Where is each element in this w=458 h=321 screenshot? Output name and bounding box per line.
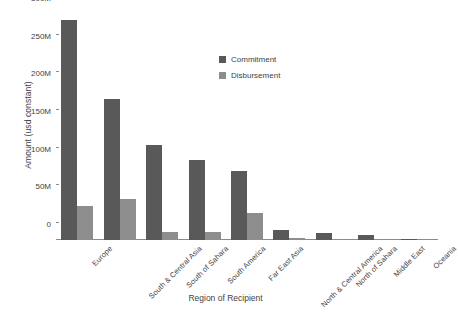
legend-swatch-icon xyxy=(219,56,226,63)
bar-disbursement xyxy=(162,232,178,240)
bar-group xyxy=(268,14,310,240)
bar-disbursement xyxy=(205,232,221,240)
legend-label: Disbursement xyxy=(231,71,280,80)
bar-commitment xyxy=(189,160,205,240)
bar-group xyxy=(98,14,140,240)
x-axis-title: Region of Recipient xyxy=(0,293,451,303)
bar-disbursement xyxy=(77,206,93,240)
legend: Commitment Disbursement xyxy=(219,55,280,87)
y-axis-tick: 50M xyxy=(35,175,56,193)
legend-swatch-icon xyxy=(219,72,226,79)
y-axis-tick-label: 250M xyxy=(31,32,56,41)
bar-group xyxy=(183,14,225,240)
plot-area: 050M100M150M200M250M300M xyxy=(56,14,438,240)
bar-commitment xyxy=(61,20,77,240)
bar-disbursement xyxy=(289,238,305,240)
y-axis-tick: 0 xyxy=(47,213,56,231)
bar-disbursement xyxy=(374,239,390,240)
bar-disbursement xyxy=(120,199,136,240)
y-axis-tick-label: 300M xyxy=(31,0,56,3)
legend-label: Commitment xyxy=(231,55,276,64)
y-axis-tick: 300M xyxy=(31,0,56,5)
y-axis-tick: 100M xyxy=(31,138,56,156)
bar-commitment xyxy=(316,233,332,240)
bar-group xyxy=(56,14,98,240)
x-axis-tick-label: Oceania xyxy=(431,244,458,271)
y-axis-tick: 250M xyxy=(31,25,56,43)
bar-group xyxy=(311,14,353,240)
y-axis-tick-label: 0 xyxy=(47,220,56,229)
x-axis-tick-label: Europe xyxy=(90,244,114,268)
bar-group xyxy=(396,14,438,240)
bar-commitment xyxy=(273,230,289,240)
bar-group xyxy=(353,14,395,240)
y-axis-tick-label: 200M xyxy=(31,69,56,78)
x-axis-tick-label: South America xyxy=(225,244,267,286)
legend-item-commitment: Commitment xyxy=(219,55,280,64)
bar-disbursement xyxy=(332,239,348,241)
y-axis-tick: 150M xyxy=(31,100,56,118)
y-axis-tick: 200M xyxy=(31,62,56,80)
y-axis-tick-label: 100M xyxy=(31,145,56,154)
bar-group xyxy=(141,14,183,240)
y-axis-tick-label: 50M xyxy=(35,182,56,191)
legend-item-disbursement: Disbursement xyxy=(219,71,280,80)
bar-commitment xyxy=(146,145,162,240)
bar-commitment xyxy=(401,239,417,240)
bar-commitment xyxy=(358,235,374,240)
x-axis-tick-label: Far East Asia xyxy=(266,244,305,283)
bar-group xyxy=(226,14,268,240)
bar-commitment xyxy=(104,99,120,240)
bar-disbursement xyxy=(247,213,263,240)
bar-disbursement xyxy=(417,239,433,240)
y-axis-tick-label: 150M xyxy=(31,107,56,116)
bar-commitment xyxy=(231,171,247,240)
